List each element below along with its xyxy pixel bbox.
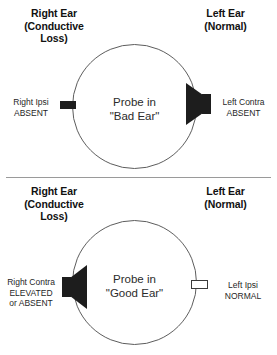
heading-left-ear-bottom: Left Ear (Normal) <box>178 185 273 210</box>
heading-left-ear-bottom-line2: (Normal) <box>178 198 273 211</box>
note-left-ipsi-bottom-line2: NORMAL <box>212 291 274 302</box>
probe-icon-top-left <box>60 101 76 109</box>
heading-left-ear-top: Left Ear (Normal) <box>178 7 273 32</box>
center-caption-bottom: Probe in "Good Ear" <box>72 272 197 300</box>
note-left-contra-top: Left Contra ABSENT <box>212 97 275 118</box>
heading-left-ear-bottom-line1: Left Ear <box>178 185 273 198</box>
note-left-contra-top-line1: Left Contra <box>212 97 275 108</box>
heading-right-ear-bottom-line1: Right Ear <box>4 185 104 198</box>
note-right-contra-bottom-line3: or ABSENT <box>0 298 62 309</box>
note-right-contra-bottom-line1: Right Contra <box>0 277 62 288</box>
note-right-ipsi-top-line1: Right Ipsi <box>2 97 60 108</box>
center-caption-bottom-line2: "Good Ear" <box>72 286 197 300</box>
heading-right-ear-bottom: Right Ear (Conductive Loss) <box>4 185 104 223</box>
center-caption-top-line2: "Bad Ear" <box>72 109 197 123</box>
note-left-ipsi-bottom: Left Ipsi NORMAL <box>212 280 274 301</box>
note-right-ipsi-top: Right Ipsi ABSENT <box>2 97 60 118</box>
note-left-contra-top-line2: ABSENT <box>212 108 275 119</box>
center-caption-top: Probe in "Bad Ear" <box>72 95 197 123</box>
heading-right-ear-bottom-line2: (Conductive <box>4 198 104 211</box>
heading-right-ear-top: Right Ear (Conductive Loss) <box>4 7 104 45</box>
note-right-contra-bottom: Right Contra ELEVATED or ABSENT <box>0 277 62 309</box>
heading-left-ear-top-line2: (Normal) <box>178 20 273 33</box>
probe-icon-bottom-right <box>191 280 208 289</box>
center-caption-bottom-line1: Probe in <box>72 272 197 286</box>
heading-right-ear-top-line2: (Conductive <box>4 20 104 33</box>
heading-right-ear-bottom-line3: Loss) <box>4 210 104 223</box>
heading-left-ear-top-line1: Left Ear <box>178 7 273 20</box>
heading-right-ear-top-line3: Loss) <box>4 32 104 45</box>
heading-right-ear-top-line1: Right Ear <box>4 7 104 20</box>
panel-probe-in-good-ear: Right Ear (Conductive Loss) Left Ear (No… <box>0 178 277 355</box>
note-left-ipsi-bottom-line1: Left Ipsi <box>212 280 274 291</box>
note-right-contra-bottom-line2: ELEVATED <box>0 288 62 299</box>
speaker-cone-icon-top-right <box>186 83 212 125</box>
center-caption-top-line1: Probe in <box>72 95 197 109</box>
note-right-ipsi-top-line2: ABSENT <box>2 108 60 119</box>
panel-probe-in-bad-ear: Right Ear (Conductive Loss) Left Ear (No… <box>0 0 277 177</box>
speaker-cone-icon-bottom-left <box>61 265 87 309</box>
